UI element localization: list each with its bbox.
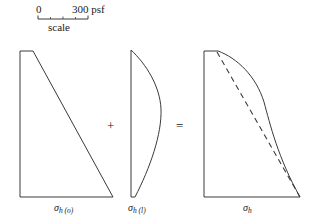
- diagram-surcharge-pressure: [131, 50, 161, 197]
- figure-canvas: [0, 0, 315, 223]
- at-rest-pressure-outline: [20, 51, 113, 197]
- pressure-diagram-figure: 0 300 psf scale + = σh (o) σh (l) σh: [0, 0, 315, 223]
- plus-operator: +: [107, 119, 114, 132]
- sigma-subscript-h: h: [248, 206, 252, 215]
- scale-caption: scale: [48, 22, 70, 33]
- diagram-at-rest-pressure: [20, 51, 113, 197]
- surcharge-pressure-curve: [131, 50, 161, 197]
- scale-max-label: 300 psf: [72, 4, 105, 15]
- at-rest-reference-dashed-line: [217, 52, 300, 197]
- surcharge-pressure-label: σh (l): [128, 203, 146, 216]
- scale-bar: [38, 16, 88, 20]
- total-pressure-curve: [218, 51, 300, 197]
- at-rest-pressure-label: σh (o): [54, 203, 73, 216]
- scale-zero-label: 0: [36, 4, 42, 15]
- sigma-subscript-ho: h (o): [59, 206, 73, 215]
- diagram-total-pressure: [204, 51, 300, 197]
- sigma-subscript-hl: h (l): [133, 206, 146, 215]
- total-pressure-label: σh: [243, 203, 252, 216]
- equals-operator: =: [176, 119, 183, 132]
